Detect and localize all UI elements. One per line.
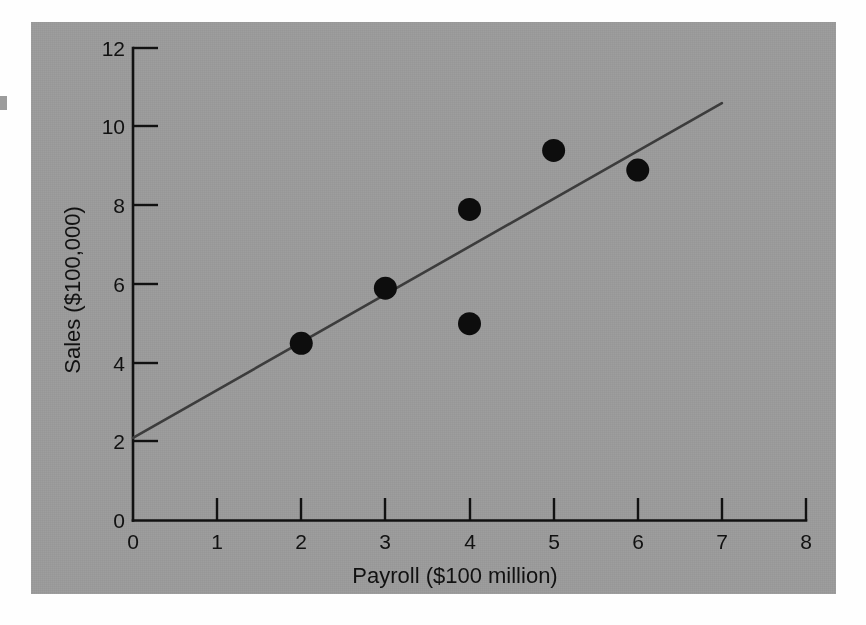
- x-tick-labels: 0 1 2 3 4 5 6 7 8: [127, 530, 812, 553]
- y-tick-label-0: 0: [113, 509, 125, 532]
- y-tick-label-6: 6: [113, 273, 125, 296]
- x-tick-label-6: 6: [632, 530, 644, 553]
- x-tick-label-0: 0: [127, 530, 139, 553]
- data-point: [542, 139, 565, 162]
- y-tick-label-2: 2: [113, 430, 125, 453]
- y-tick-label-4: 4: [113, 352, 125, 375]
- data-point: [626, 159, 649, 182]
- scatter-plot: 12 10 8 6 4 2 0 0 1 2 3 4 5 6: [0, 0, 866, 625]
- y-tick-marks: [133, 48, 158, 441]
- x-tick-label-1: 1: [211, 530, 223, 553]
- y-tick-labels: 12 10 8 6 4 2 0: [102, 37, 126, 532]
- x-tick-label-7: 7: [716, 530, 728, 553]
- x-tick-label-4: 4: [464, 530, 476, 553]
- x-tick-label-3: 3: [379, 530, 391, 553]
- x-tick-label-2: 2: [295, 530, 307, 553]
- y-tick-label-10: 10: [102, 115, 125, 138]
- x-tick-label-8: 8: [800, 530, 812, 553]
- x-tick-label-5: 5: [548, 530, 560, 553]
- y-tick-label-8: 8: [113, 194, 125, 217]
- data-point: [458, 198, 481, 221]
- data-point: [458, 312, 481, 335]
- data-point: [374, 277, 397, 300]
- page-background: 12 10 8 6 4 2 0 0 1 2 3 4 5 6: [0, 0, 866, 625]
- axes-group: [133, 48, 806, 521]
- x-tick-marks: [217, 498, 806, 521]
- y-tick-label-12: 12: [102, 37, 125, 60]
- data-point: [290, 332, 313, 355]
- regression-line: [133, 103, 722, 438]
- y-axis-title: Sales ($100,000): [60, 206, 85, 374]
- x-axis-title: Payroll ($100 million): [352, 563, 557, 588]
